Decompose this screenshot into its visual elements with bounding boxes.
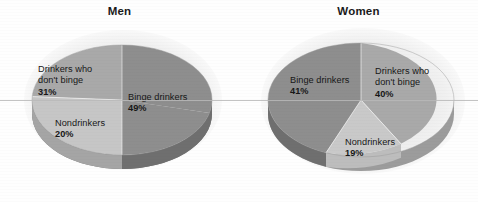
label-line-1: Binge drinkers bbox=[128, 92, 187, 103]
label-women-drinkers-no-binge: Drinkers who don't binge 40% bbox=[375, 66, 429, 100]
label-women-binge-drinkers: Binge drinkers 41% bbox=[290, 75, 349, 98]
label-percent: 31% bbox=[38, 87, 92, 98]
pie-chart-women bbox=[239, 0, 478, 202]
pie-chart-men bbox=[0, 0, 239, 202]
panel-men: Men bbox=[0, 0, 239, 202]
label-line-2: don't binge bbox=[38, 75, 92, 86]
label-percent: 40% bbox=[375, 89, 429, 100]
label-women-nondrinkers: Nondrinkers 19% bbox=[345, 137, 395, 160]
label-percent: 49% bbox=[128, 103, 187, 114]
label-line-1: Binge drinkers bbox=[290, 75, 349, 86]
label-men-drinkers-no-binge: Drinkers who don't binge 31% bbox=[38, 64, 92, 98]
label-men-nondrinkers: Nondrinkers 20% bbox=[55, 118, 105, 141]
label-line-1: Drinkers who bbox=[38, 64, 92, 75]
pie-chart-figure: Men bbox=[0, 0, 478, 202]
label-line-1: Drinkers who bbox=[375, 66, 429, 77]
label-line-1: Nondrinkers bbox=[55, 118, 105, 129]
label-percent: 20% bbox=[55, 129, 105, 140]
panel-women: Women bbox=[239, 0, 478, 202]
label-percent: 19% bbox=[345, 148, 395, 159]
label-men-binge-drinkers: Binge drinkers 49% bbox=[128, 92, 187, 115]
label-line-1: Nondrinkers bbox=[345, 137, 395, 148]
label-line-2: don't binge bbox=[375, 77, 429, 88]
label-percent: 41% bbox=[290, 86, 349, 97]
